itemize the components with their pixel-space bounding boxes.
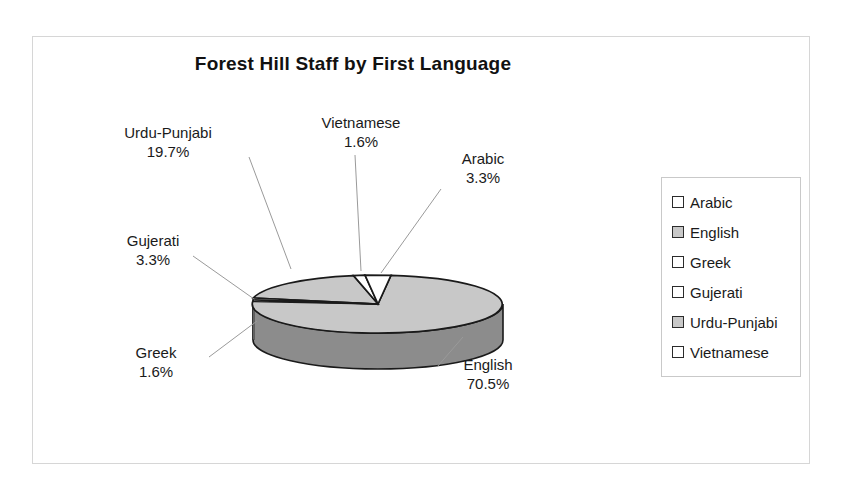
pie-label-gujerati-value: 3.3% (83, 250, 223, 269)
legend-label-gujerati: Gujerati (690, 284, 743, 301)
legend-swatch-arabic (672, 196, 684, 208)
legend-label-arabic: Arabic (690, 194, 733, 211)
legend-label-vietnamese: Vietnamese (690, 344, 769, 361)
chart-frame: Forest Hill Staff by First Language (32, 36, 810, 464)
legend-item-urdu-punjabi[interactable]: Urdu-Punjabi (672, 307, 792, 337)
leader-line-arabic (381, 189, 441, 273)
pie-label-vietnamese-name: Vietnamese (291, 113, 431, 132)
pie-label-urdu-punjabi: Urdu-Punjabi 19.7% (93, 123, 243, 161)
legend-item-greek[interactable]: Greek (672, 247, 792, 277)
legend-item-arabic[interactable]: Arabic (672, 187, 792, 217)
leader-line-vietnamese (355, 155, 361, 271)
legend-item-gujerati[interactable]: Gujerati (672, 277, 792, 307)
pie-label-urdu-punjabi-name: Urdu-Punjabi (93, 123, 243, 142)
pie-label-arabic-name: Arabic (423, 149, 543, 168)
pie-label-english-name: English (423, 355, 553, 374)
legend-item-english[interactable]: English (672, 217, 792, 247)
pie-top-face (252, 275, 502, 333)
pie-label-english-value: 70.5% (423, 374, 553, 393)
legend-label-english: English (690, 224, 739, 241)
pie-label-vietnamese: Vietnamese 1.6% (291, 113, 431, 151)
pie-label-vietnamese-value: 1.6% (291, 132, 431, 151)
pie-label-english: English 70.5% (423, 355, 553, 393)
pie-chart-plot-area: Urdu-Punjabi 19.7% Vietnamese 1.6% Arabi… (33, 37, 673, 463)
legend-label-urdu-punjabi: Urdu-Punjabi (690, 314, 778, 331)
pie-label-urdu-punjabi-value: 19.7% (93, 142, 243, 161)
legend-swatch-gujerati (672, 286, 684, 298)
legend-swatch-english (672, 226, 684, 238)
pie-label-gujerati: Gujerati 3.3% (83, 231, 223, 269)
pie-label-arabic-value: 3.3% (423, 168, 543, 187)
pie-label-arabic: Arabic 3.3% (423, 149, 543, 187)
leader-line-urdu-punjabi (249, 157, 291, 269)
chart-legend: Arabic English Greek Gujerati Urdu-Punja… (661, 177, 801, 377)
legend-label-greek: Greek (690, 254, 731, 271)
legend-swatch-urdu-punjabi (672, 316, 684, 328)
pie-label-greek: Greek 1.6% (91, 343, 221, 381)
legend-item-vietnamese[interactable]: Vietnamese (672, 337, 792, 367)
legend-swatch-vietnamese (672, 346, 684, 358)
pie-label-greek-name: Greek (91, 343, 221, 362)
pie-label-gujerati-name: Gujerati (83, 231, 223, 250)
pie-label-greek-value: 1.6% (91, 362, 221, 381)
legend-swatch-greek (672, 256, 684, 268)
